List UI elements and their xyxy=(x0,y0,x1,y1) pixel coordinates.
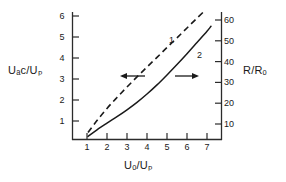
annotation-arrows xyxy=(120,73,199,79)
ytick-label-right-20: 20 xyxy=(224,98,242,108)
ytick-label-right-30: 30 xyxy=(224,77,242,87)
xtick-label-4: 4 xyxy=(141,142,153,152)
arrow-right-icon xyxy=(175,73,199,79)
xtick-label-2: 2 xyxy=(101,142,113,152)
figure-chart: 6 5 4 3 2 1 60 50 40 30 20 10 1 2 3 4 5 … xyxy=(0,0,286,182)
axes-lines xyxy=(72,12,222,140)
ytick-label-left-3: 3 xyxy=(56,74,68,84)
xtick-label-6: 6 xyxy=(181,142,193,152)
ytick-label-left-6: 6 xyxy=(56,11,68,21)
ytick-label-right-10: 10 xyxy=(224,119,242,129)
ytick-label-left-2: 2 xyxy=(56,95,68,105)
ytick-label-right-50: 50 xyxy=(224,36,242,46)
bottom-axis-ticks xyxy=(87,133,207,140)
y-axis-label-left: Uₐс/Uₚ xyxy=(8,64,43,77)
ytick-label-right-40: 40 xyxy=(224,57,242,67)
xtick-label-3: 3 xyxy=(121,142,133,152)
plot-canvas xyxy=(0,0,286,182)
ytick-label-left-4: 4 xyxy=(56,53,68,63)
series-2-label: 2 xyxy=(197,50,202,60)
ytick-label-left-1: 1 xyxy=(56,116,68,126)
left-axis-ticks xyxy=(73,16,80,121)
series-1-dashed-line xyxy=(88,11,204,132)
xtick-label-1: 1 xyxy=(81,142,93,152)
series-2-solid-line xyxy=(88,26,211,136)
ytick-label-right-60: 60 xyxy=(224,15,242,25)
xtick-label-5: 5 xyxy=(161,142,173,152)
series-1-label: 1 xyxy=(169,35,174,45)
y-axis-label-right: R/Rₒ xyxy=(243,64,267,76)
x-axis-label: Uₒ/Uₚ xyxy=(124,159,153,172)
right-axis-ticks xyxy=(215,20,222,124)
ytick-label-left-5: 5 xyxy=(56,32,68,42)
arrow-left-icon xyxy=(120,73,145,79)
xtick-label-7: 7 xyxy=(201,142,213,152)
